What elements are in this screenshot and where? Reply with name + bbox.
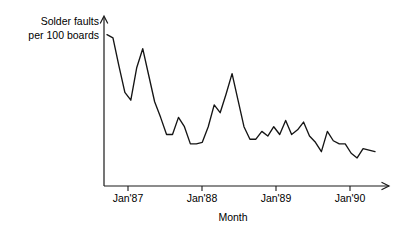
x-tick-label-jan90: Jan'90 xyxy=(335,192,366,204)
x-tick-label-jan89: Jan'89 xyxy=(261,192,292,204)
solder-faults-line-chart: Solder faults per 100 boards Jan'87 Jan'… xyxy=(0,0,398,231)
series-line-solder-faults xyxy=(107,35,375,158)
chart-canvas: Jan'87 Jan'88 Jan'89 Jan'90 Month xyxy=(0,0,398,231)
x-tick-label-jan87: Jan'87 xyxy=(113,192,144,204)
x-axis-title: Month xyxy=(218,211,247,223)
x-tick-label-jan88: Jan'88 xyxy=(187,192,218,204)
